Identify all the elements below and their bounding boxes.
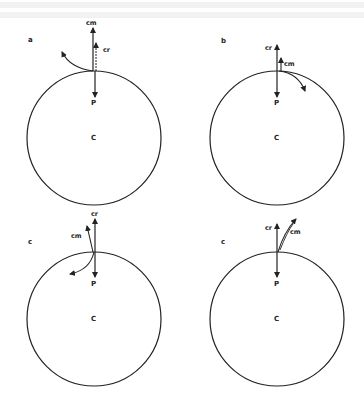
point-p-label: P [274, 99, 279, 107]
center-c-label: C [91, 134, 96, 142]
cm-label: cm [86, 19, 97, 27]
cr-label: cr [91, 210, 99, 218]
panel-label: c [28, 238, 32, 246]
cr-label: cr [103, 46, 111, 54]
cm-label: cm [284, 60, 295, 68]
diagram-canvas: a cm cr P C b cr cm P C c cr cm P C [0, 0, 364, 406]
point-p-label: P [91, 280, 96, 288]
panel-label: a [28, 36, 33, 44]
panel-c-left: c cr cm P C [27, 210, 161, 386]
point-p-label: P [274, 280, 279, 288]
center-c-label: C [274, 134, 279, 142]
panel-b: b cr cm P C [210, 37, 344, 205]
cm-label: cm [290, 228, 301, 236]
center-c-label: C [91, 315, 96, 323]
panel-label: c [221, 238, 225, 246]
center-c-label: C [274, 315, 279, 323]
cm-label: cm [71, 232, 82, 240]
rotation-arrow [279, 71, 305, 91]
panel-label: b [221, 37, 226, 45]
cm-vector [87, 226, 93, 252]
cr-label: cr [265, 44, 273, 52]
cr-label: cr [265, 224, 273, 232]
rotation-arrow [62, 52, 93, 71]
panel-c-right: c cr cm P C [210, 219, 344, 386]
point-p-label: P [91, 99, 96, 107]
panel-a: a cm cr P C [27, 19, 161, 205]
